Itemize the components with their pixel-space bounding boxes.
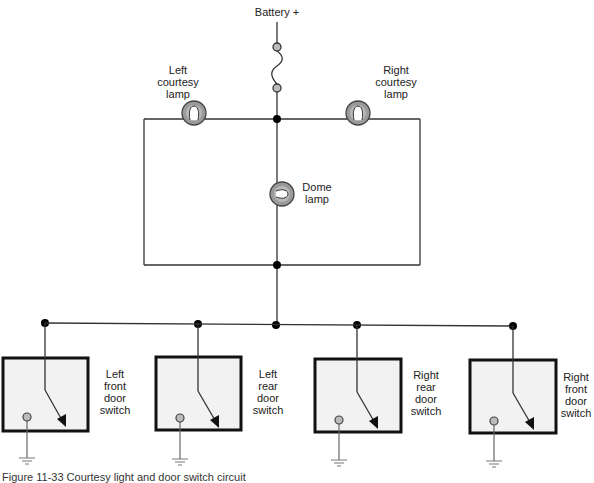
right-rear-door-switch-icon bbox=[315, 325, 401, 466]
figure-caption: Figure 11-33 Courtesy light and door swi… bbox=[2, 471, 246, 483]
label-line: Right bbox=[556, 371, 594, 383]
label-line: Right bbox=[403, 369, 449, 381]
battery-label: Battery + bbox=[245, 6, 309, 18]
label-line: front bbox=[92, 380, 138, 392]
junction-dots bbox=[41, 115, 517, 330]
label-line: courtesy bbox=[150, 76, 206, 88]
battery-label-text: Battery + bbox=[245, 6, 309, 18]
label-line: door bbox=[556, 395, 594, 407]
label-line: rear bbox=[403, 381, 449, 393]
left-front-door-switch-icon bbox=[3, 323, 88, 464]
right-courtesy-lamp-label: Right courtesy lamp bbox=[366, 64, 426, 100]
label-line: door bbox=[403, 393, 449, 405]
left-rear-door-switch-label: Left rear door switch bbox=[245, 368, 291, 416]
label-line: rear bbox=[245, 380, 291, 392]
dome-lamp-label: Dome lamp bbox=[295, 181, 339, 205]
label-line: switch bbox=[245, 404, 291, 416]
label-line: Right bbox=[366, 64, 426, 76]
right-rear-door-switch-label: Right rear door switch bbox=[403, 369, 449, 417]
left-rear-door-switch-icon bbox=[156, 324, 241, 465]
label-line: Dome bbox=[295, 181, 339, 193]
right-courtesy-lamp-icon bbox=[346, 101, 370, 125]
label-line: front bbox=[556, 383, 594, 395]
left-courtesy-lamp-label: Left courtesy lamp bbox=[150, 64, 206, 100]
label-line: switch bbox=[556, 407, 594, 419]
label-line: switch bbox=[403, 405, 449, 417]
left-courtesy-lamp-icon bbox=[182, 101, 206, 125]
label-line: Left bbox=[245, 368, 291, 380]
label-line: door bbox=[245, 392, 291, 404]
label-line: Left bbox=[92, 368, 138, 380]
label-line: door bbox=[92, 392, 138, 404]
label-line: switch bbox=[92, 404, 138, 416]
dome-lamp-icon bbox=[270, 182, 294, 206]
label-line: lamp bbox=[366, 88, 426, 100]
right-front-door-switch-icon bbox=[470, 326, 556, 467]
right-front-door-switch-label: Right front door switch bbox=[556, 371, 594, 419]
label-line: lamp bbox=[150, 88, 206, 100]
battery-feed bbox=[272, 22, 283, 324]
left-front-door-switch-label: Left front door switch bbox=[92, 368, 138, 416]
label-line: courtesy bbox=[366, 76, 426, 88]
label-line: lamp bbox=[295, 193, 339, 205]
label-line: Left bbox=[150, 64, 206, 76]
